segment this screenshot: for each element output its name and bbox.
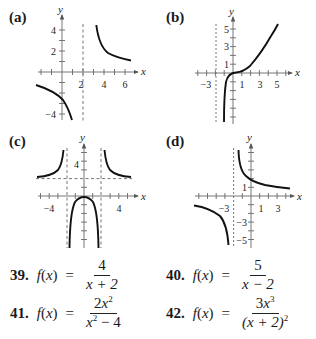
exercise-number: 42. — [166, 305, 185, 322]
axis-label-y-d: y — [246, 131, 252, 143]
tick-label: −4 — [45, 109, 56, 120]
tick-label: −3 — [219, 203, 230, 214]
graph-d — [194, 144, 294, 248]
tick-label: 4 — [117, 203, 122, 214]
tick-label: 2 — [51, 46, 56, 57]
equation-39: 39. f(x) = 4 x + 2 — [10, 258, 122, 293]
tick-label: 3 — [258, 79, 263, 90]
denominator: (x + 2)2 — [238, 314, 292, 331]
denominator: x + 2 — [82, 276, 122, 293]
tick-label: 3 — [276, 203, 281, 214]
equals-sign: = — [222, 305, 230, 322]
function-name: f(x) — [37, 305, 58, 322]
denominator: x2 − 4 — [82, 314, 125, 331]
tick-label: 1 — [224, 59, 229, 70]
fraction: 3x3 (x + 2)2 — [238, 296, 292, 331]
graphs-canvas: y x 2 4 6 4 2 −4 y x −3 1 3 5 5 3 1 — [0, 0, 316, 250]
curve-right — [96, 25, 131, 61]
axis-label-y-b: y — [228, 5, 234, 17]
numerator: 5 — [250, 258, 266, 276]
tick-label: 4 — [51, 25, 56, 36]
axis-label-x-d: x — [296, 190, 302, 202]
equals-sign: = — [66, 267, 74, 284]
tick-label: 2 — [79, 79, 84, 90]
tick-label: 1 — [240, 79, 245, 90]
tick-label: 4 — [74, 159, 79, 170]
exercise-number: 39. — [10, 267, 29, 284]
tick-label: −3 — [201, 79, 212, 90]
numerator: 4 — [94, 258, 110, 276]
function-name: f(x) — [37, 267, 58, 284]
equation-42: 42. f(x) = 3x3 (x + 2)2 — [166, 296, 292, 331]
axis-label-x-a: x — [140, 65, 146, 77]
equals-sign: = — [222, 267, 230, 284]
tick-label: 4 — [102, 79, 107, 90]
curve-right — [105, 150, 132, 177]
graph-c — [36, 144, 138, 248]
tick-label: −5 — [236, 235, 247, 246]
axis-label-y-a: y — [57, 3, 63, 15]
fraction: 5 x − 2 — [238, 258, 278, 293]
numerator: 3x3 — [252, 296, 279, 314]
equation-41: 41. f(x) = 2x2 x2 − 4 — [10, 296, 125, 331]
tick-label: −3 — [236, 217, 247, 228]
tick-label: 1 — [259, 203, 264, 214]
tick-label: −4 — [44, 203, 55, 214]
exercise-number: 41. — [10, 305, 29, 322]
denominator: x − 2 — [238, 276, 278, 293]
equation-40: 40. f(x) = 5 x − 2 — [166, 258, 278, 293]
tick-label: 3 — [224, 41, 229, 52]
tick-label: 5 — [275, 79, 280, 90]
axis-label-x-b: x — [294, 66, 300, 78]
numerator: 2x2 — [90, 296, 117, 314]
function-name: f(x) — [193, 305, 214, 322]
fraction: 4 x + 2 — [82, 258, 122, 293]
function-name: f(x) — [193, 267, 214, 284]
axis-label-x-c: x — [140, 190, 146, 202]
curve-left — [37, 150, 64, 177]
axis-label-y-c: y — [79, 131, 85, 143]
exercise-number: 40. — [166, 267, 185, 284]
tick-label: 5 — [224, 24, 229, 35]
equals-sign: = — [66, 305, 74, 322]
graph-b — [195, 17, 292, 124]
tick-label: 6 — [123, 79, 128, 90]
fraction: 2x2 x2 − 4 — [82, 296, 125, 331]
tick-label: 1 — [242, 182, 247, 193]
